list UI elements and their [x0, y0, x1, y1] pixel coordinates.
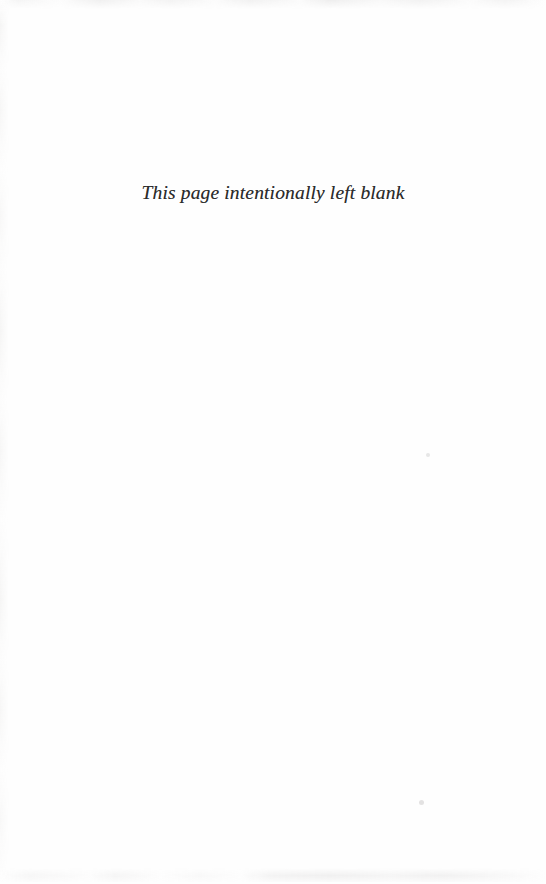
dust-speck-icon	[426, 453, 430, 457]
blank-page-notice-text: This page intentionally left blank	[142, 181, 405, 205]
dust-speck-icon	[419, 800, 424, 805]
scan-streak-left-icon	[0, 0, 9, 884]
scanned-page: This page intentionally left blank	[0, 0, 546, 884]
blank-page-notice: This page intentionally left blank	[0, 181, 546, 205]
paper-surface	[0, 0, 546, 884]
scan-smudge-top-icon	[0, 0, 546, 9]
scan-smudge-bottom-icon	[0, 868, 546, 882]
